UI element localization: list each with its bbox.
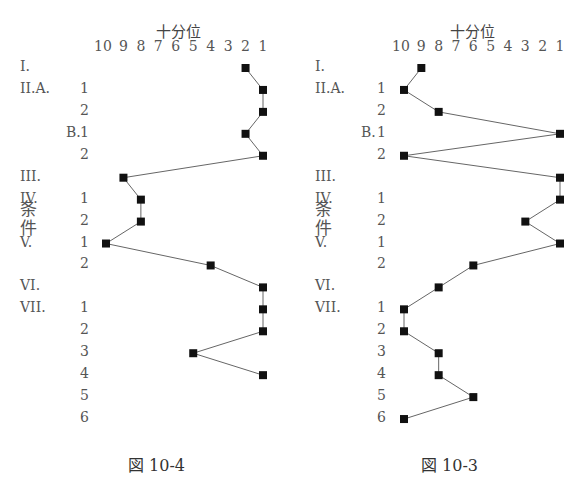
series-line xyxy=(404,68,560,419)
data-point-marker xyxy=(400,415,408,423)
series-line xyxy=(106,68,263,375)
data-point-marker xyxy=(119,174,127,182)
plot-area xyxy=(0,0,287,493)
data-point-marker xyxy=(259,371,267,379)
data-point-marker xyxy=(189,349,197,357)
data-point-marker xyxy=(417,64,425,72)
data-point-marker xyxy=(137,196,145,204)
data-point-marker xyxy=(400,86,408,94)
data-point-marker xyxy=(102,240,110,248)
data-point-marker xyxy=(137,218,145,226)
data-point-marker xyxy=(259,327,267,335)
data-point-marker xyxy=(207,261,215,269)
data-point-marker xyxy=(259,152,267,160)
chart-figure-10-4: 十分位 10987654321 I.II.A.12B.12III.IV.12V.… xyxy=(0,0,287,493)
plot-area xyxy=(287,0,574,493)
data-point-marker xyxy=(556,174,564,182)
data-point-marker xyxy=(556,130,564,138)
data-point-marker xyxy=(259,86,267,94)
figure-caption: 図 10-4 xyxy=(128,452,185,476)
data-point-marker xyxy=(242,130,250,138)
data-point-marker xyxy=(469,261,477,269)
data-point-marker xyxy=(259,108,267,116)
data-point-marker xyxy=(556,196,564,204)
data-point-marker xyxy=(259,305,267,313)
data-point-marker xyxy=(435,371,443,379)
data-point-marker xyxy=(435,108,443,116)
chart-figure-10-3: 十分位 10987654321 I.II.A.12B.12III.IV.12V.… xyxy=(287,0,574,493)
data-point-marker xyxy=(400,152,408,160)
data-point-marker xyxy=(435,283,443,291)
data-point-marker xyxy=(521,218,529,226)
data-point-marker xyxy=(259,283,267,291)
data-point-marker xyxy=(400,327,408,335)
figure-caption: 図 10-3 xyxy=(421,452,478,476)
data-point-marker xyxy=(400,305,408,313)
data-point-marker xyxy=(469,393,477,401)
data-point-marker xyxy=(556,240,564,248)
data-point-marker xyxy=(242,64,250,72)
data-point-marker xyxy=(435,349,443,357)
